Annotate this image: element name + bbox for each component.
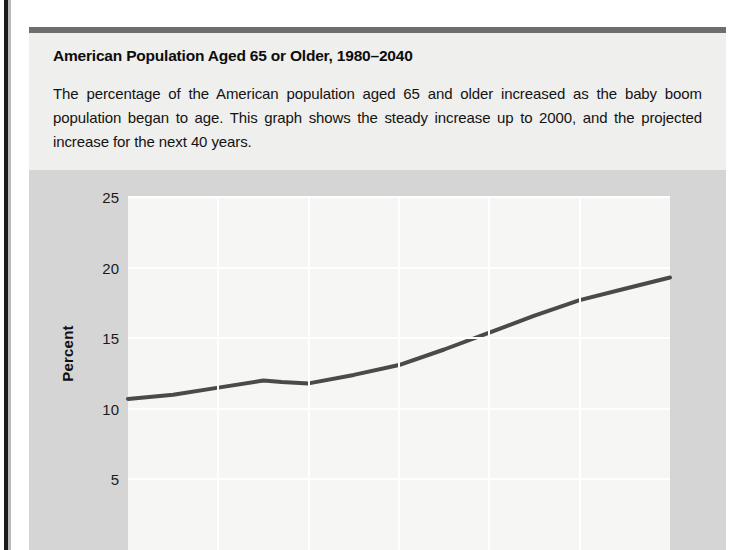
figure-description: The percentage of the American populatio… [53, 82, 702, 155]
y-axis-tick-label: 20 [85, 261, 119, 276]
y-axis-tick-labels: 252015105 [79, 197, 119, 550]
figure-caption-box: American Population Aged 65 or Older, 19… [29, 27, 726, 174]
vertical-gridline [579, 197, 581, 550]
caption-text-container: American Population Aged 65 or Older, 19… [29, 33, 726, 174]
y-axis-title: Percent [59, 294, 76, 414]
y-axis-tick-label: 10 [85, 402, 119, 417]
figure-title: American Population Aged 65 or Older, 19… [53, 47, 702, 66]
page-binding-shadow [8, 0, 11, 550]
y-axis-tick-label: 25 [85, 190, 119, 205]
vertical-gridline [217, 197, 219, 550]
y-axis-tick-label: 5 [85, 472, 119, 487]
vertical-gridline [308, 197, 310, 550]
chart-panel: Percent 252015105 [29, 170, 726, 550]
vertical-gridline [398, 197, 400, 550]
plot-area [128, 197, 670, 550]
vertical-gridline [488, 197, 490, 550]
y-axis-tick-label: 15 [85, 331, 119, 346]
